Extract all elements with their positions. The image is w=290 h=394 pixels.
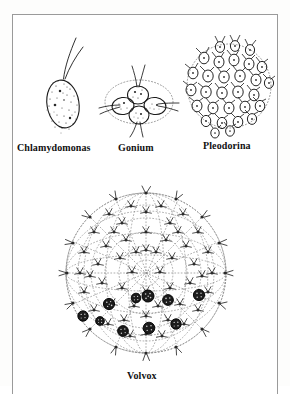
pleodorina-cell [198,83,212,98]
pleodorina-cell [233,66,246,82]
pleodorina-cell [215,36,225,52]
pleodorina-cell [263,74,275,88]
volvox-daughter-colonies [78,289,205,336]
pleodorina-cell [247,85,260,101]
daughter-colony [118,326,129,337]
pleodorina-cell [245,39,256,55]
gonium-cell [111,96,135,116]
pleodorina-cell [215,83,228,99]
pleodorina-cell [231,82,244,98]
chlamydomonas-cell-wall [43,78,82,130]
gonium-drawing [96,60,182,138]
pleodorina-cell [185,63,198,79]
pleodorina-cell [245,110,258,124]
daughter-colony [193,289,204,300]
pleodorina-cell [196,47,209,64]
daughter-colony [78,311,88,321]
label-volvox: Volvox [127,370,157,381]
pleodorina-cell [253,97,266,112]
label-gonium: Gonium [118,142,154,153]
gonium-flagella [99,65,179,137]
pleodorina-cell [242,54,255,70]
organism-volvox [62,188,232,360]
pleodorina-cell [217,67,230,83]
pleodorina-drawing [182,38,278,134]
pleodorina-cell [256,57,268,73]
daughter-colony [143,322,155,334]
pleodorina-cell [212,52,224,68]
organism-gonium [96,60,182,138]
daughter-colony [142,290,154,302]
daughter-colony [163,295,174,306]
pleodorina-cell [200,66,214,82]
chlamydomonas-drawing [34,26,98,138]
daughter-colony [103,298,114,309]
daughter-colony [171,319,181,329]
gonium-cell [143,96,167,116]
chlamydomonas-flagella [64,38,84,79]
volvox-somatic-cells-interior [75,201,218,338]
label-chlamydomonas: Chlamydomonas [17,142,91,153]
daughter-colony [96,317,105,326]
organism-pleodorina [182,38,278,134]
organism-chlamydomonas [34,26,98,138]
daughter-colony [131,293,141,303]
label-pleodorina: Pleodorina [203,140,251,151]
volvox-drawing [62,188,232,360]
pleodorina-cell [206,98,219,114]
pleodorina-cell [238,97,251,113]
pleodorina-cell [230,35,240,51]
gonium-cell [129,106,149,124]
pleodorina-cell [227,50,239,66]
pleodorina-cells [183,35,275,138]
pleodorina-cell [222,98,235,114]
pleodorina-cell [183,81,197,96]
